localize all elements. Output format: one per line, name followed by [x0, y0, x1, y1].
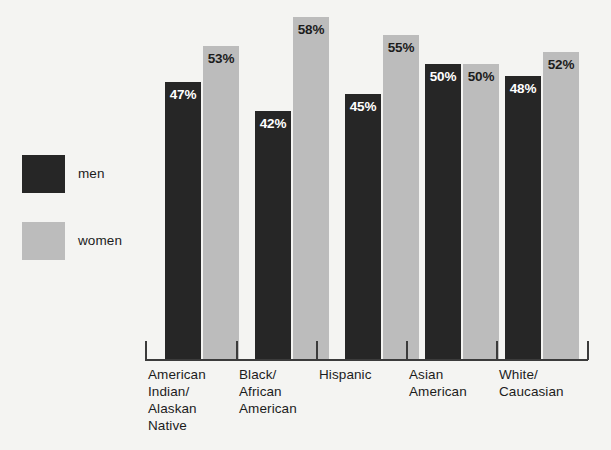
axis-tick-0	[145, 341, 147, 360]
bar-value-label: 45%	[345, 99, 381, 114]
bar-women-2: 55%	[383, 35, 419, 360]
axis-tick-3	[406, 341, 408, 360]
bar-value-label: 55%	[383, 40, 419, 55]
axis-tick-4	[496, 341, 498, 360]
bar-value-label: 48%	[505, 81, 541, 96]
bar-value-label: 42%	[255, 116, 291, 131]
axis-tick-1	[236, 341, 238, 360]
bar-women-1: 58%	[293, 17, 329, 359]
category-label-0: American Indian/ Alaskan Native	[148, 366, 206, 434]
bar-women-3: 50%	[463, 64, 499, 359]
category-label-4: White/ Caucasian	[499, 366, 564, 400]
bar-men-1: 42%	[255, 111, 291, 359]
plot-area: 47%53%American Indian/ Alaskan Native42%…	[0, 0, 611, 450]
bar-value-label: 53%	[203, 51, 239, 66]
bar-value-label: 52%	[543, 57, 579, 72]
axis-tick-2	[316, 341, 318, 360]
category-label-1: Black/ African American	[239, 366, 297, 417]
category-label-3: Asian American	[409, 366, 467, 400]
bar-value-label: 50%	[463, 69, 499, 84]
bar-men-4: 48%	[505, 76, 541, 359]
bar-women-4: 52%	[543, 52, 579, 359]
bar-women-0: 53%	[203, 46, 239, 359]
bar-chart: men women 47%53%American Indian/ Alaskan…	[0, 0, 611, 450]
bar-value-label: 50%	[425, 69, 461, 84]
bar-men-0: 47%	[165, 82, 201, 359]
bar-men-3: 50%	[425, 64, 461, 359]
bar-value-label: 47%	[165, 87, 201, 102]
axis-tick-5	[587, 341, 589, 360]
bar-men-2: 45%	[345, 94, 381, 360]
category-label-2: Hispanic	[319, 366, 372, 383]
bar-value-label: 58%	[293, 22, 329, 37]
x-axis-line	[145, 359, 588, 361]
